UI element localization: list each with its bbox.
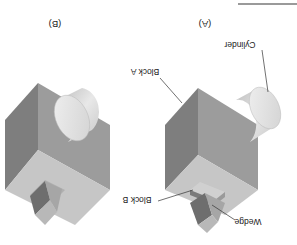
panel-a-caption: (A) — [199, 19, 212, 30]
panel-b-caption: (B) — [49, 19, 62, 30]
label-wedge: Wedge — [234, 217, 261, 227]
leader-block-a — [160, 78, 182, 103]
label-cylinder: Cylinder — [224, 40, 255, 50]
leader-cylinder — [262, 50, 268, 92]
label-block-a: Block A — [131, 67, 160, 77]
panel-a: Block A Cylinder Block B Wedge (A) — [122, 19, 287, 233]
assembly-figure: (B) Block A Cylinder Block B Wedge (A) — [0, 0, 297, 245]
label-block-b: Block B — [122, 195, 151, 205]
header-rule — [238, 3, 297, 5]
panel-b: (B) — [5, 19, 110, 225]
